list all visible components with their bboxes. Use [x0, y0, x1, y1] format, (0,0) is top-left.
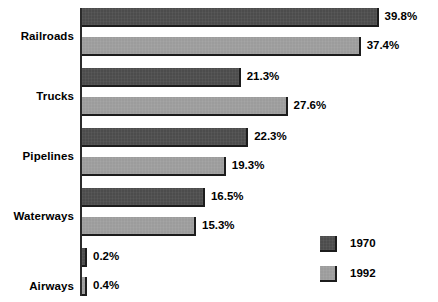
bar-value-label: 16.5% — [211, 190, 244, 202]
bar-row: 0.2% — [82, 248, 438, 267]
bar-railroads-1992[interactable] — [82, 37, 361, 56]
plot-area: Railroads39.8%37.4%Trucks21.3%27.6%Pipel… — [0, 0, 438, 302]
bar-value-label: 21.3% — [247, 70, 280, 82]
legend-swatch-1970 — [320, 236, 337, 252]
category-label-pipelines: Pipelines — [0, 150, 74, 162]
bar-row: 39.8% — [82, 8, 438, 27]
bar-value-label: 0.4% — [93, 279, 119, 291]
category-label-railroads: Railroads — [0, 30, 74, 42]
bar-pipelines-1992[interactable] — [82, 157, 226, 176]
bar-value-label: 15.3% — [202, 219, 235, 231]
category-label-trucks: Trucks — [0, 90, 74, 102]
bar-airways-1992[interactable] — [82, 277, 87, 296]
bar-trucks-1992[interactable] — [82, 97, 288, 116]
legend-label-1992: 1992 — [350, 267, 376, 279]
legend-swatch-1992 — [320, 266, 337, 282]
bar-airways-1970[interactable] — [82, 248, 87, 267]
bar-value-label: 37.4% — [367, 39, 400, 51]
bar-row: 0.4% — [82, 277, 438, 296]
category-label-waterways: Waterways — [0, 210, 74, 222]
bar-row: 22.3% — [82, 128, 438, 147]
bar-value-label: 39.8% — [385, 10, 418, 22]
bar-row: 37.4% — [82, 37, 438, 56]
bar-row: 21.3% — [82, 68, 438, 87]
bar-value-label: 22.3% — [254, 130, 287, 142]
bar-railroads-1970[interactable] — [82, 8, 379, 27]
bar-chart: Railroads39.8%37.4%Trucks21.3%27.6%Pipel… — [0, 0, 438, 302]
legend-label-1970: 1970 — [350, 237, 376, 249]
category-label-airways: Airways — [0, 280, 74, 292]
bar-trucks-1970[interactable] — [82, 68, 241, 87]
bar-row: 19.3% — [82, 157, 438, 176]
bar-waterways-1970[interactable] — [82, 188, 205, 207]
bar-waterways-1992[interactable] — [82, 217, 196, 236]
bar-row: 27.6% — [82, 97, 438, 116]
bar-row: 15.3% — [82, 217, 438, 236]
bar-value-label: 27.6% — [294, 99, 327, 111]
bar-row: 16.5% — [82, 188, 438, 207]
bar-value-label: 19.3% — [232, 159, 265, 171]
bar-value-label: 0.2% — [93, 250, 119, 262]
bar-pipelines-1970[interactable] — [82, 128, 248, 147]
